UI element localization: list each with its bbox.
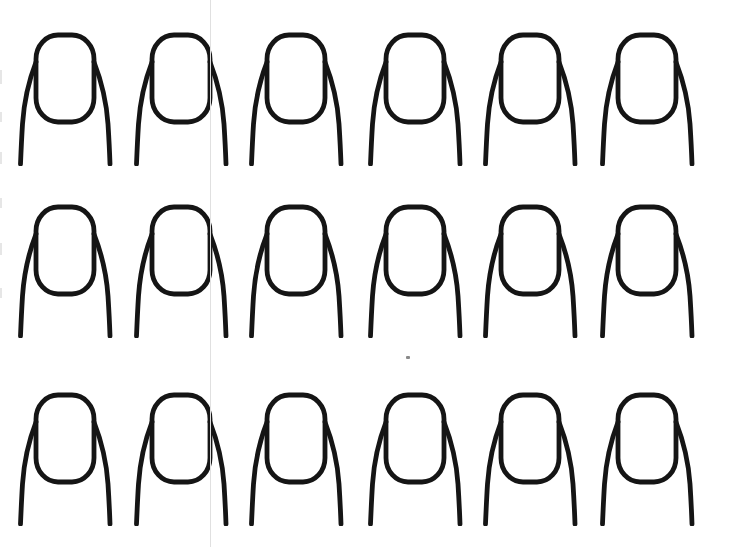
nail-plate-outline (152, 395, 210, 482)
nail-plate-outline (501, 207, 559, 294)
nail-outline-row2-col4 (360, 204, 482, 338)
nail-outline-row1-col5 (475, 32, 597, 166)
nail-outline-row1-col3 (241, 32, 363, 166)
nail-plate-outline (618, 395, 676, 482)
finger-side-right-line (559, 422, 575, 524)
nail-plate-outline (386, 35, 444, 122)
nail-outline-row3-col1 (10, 392, 132, 526)
nail-outline-row3-col6 (592, 392, 714, 526)
finger-side-right-line (676, 234, 692, 336)
finger-side-right-line (676, 62, 692, 164)
nail-outline-row2-col3 (241, 204, 363, 338)
nail-plate-outline (386, 207, 444, 294)
nail-plate-outline (36, 395, 94, 482)
finger-side-right-line (559, 234, 575, 336)
nail-outline-row3-col3 (241, 392, 363, 526)
nail-plate-outline (618, 207, 676, 294)
nail-plate-outline (152, 207, 210, 294)
nail-plate-outline (386, 395, 444, 482)
nail-plate-outline (501, 35, 559, 122)
nail-plate-outline (618, 35, 676, 122)
finger-side-right-line (559, 62, 575, 164)
nail-plate-outline (267, 207, 325, 294)
nail-plate-outline (36, 207, 94, 294)
nail-outline-row1-col6 (592, 32, 714, 166)
nail-outline-row1-col2 (126, 32, 248, 166)
nail-outline-row3-col4 (360, 392, 482, 526)
nail-plate-outline (267, 35, 325, 122)
nail-outline-row2-col2 (126, 204, 248, 338)
nail-outline-row3-col5 (475, 392, 597, 526)
nail-plate-outline (36, 35, 94, 122)
nail-plate-outline (267, 395, 325, 482)
nail-grid (0, 0, 735, 547)
nail-outline-row2-col6 (592, 204, 714, 338)
nail-outline-row1-col4 (360, 32, 482, 166)
nail-outline-row1-col1 (10, 32, 132, 166)
nail-plate-outline (152, 35, 210, 122)
nail-template-sheet (0, 0, 735, 547)
nail-outline-row3-col2 (126, 392, 248, 526)
nail-outline-row2-col1 (10, 204, 132, 338)
finger-side-right-line (676, 422, 692, 524)
nail-plate-outline (501, 395, 559, 482)
nail-outline-row2-col5 (475, 204, 597, 338)
